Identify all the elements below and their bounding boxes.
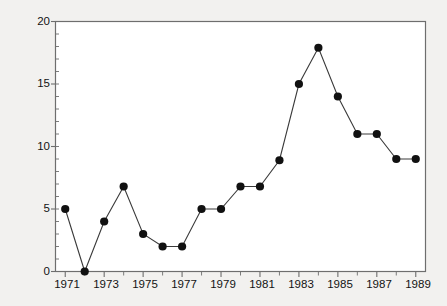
data-point-1971 bbox=[61, 205, 69, 213]
plot-area bbox=[0, 0, 447, 306]
data-point-1983 bbox=[295, 80, 303, 88]
data-point-1982 bbox=[275, 156, 283, 164]
data-point-1980 bbox=[236, 182, 244, 190]
data-point-1974 bbox=[120, 182, 128, 190]
data-point-1979 bbox=[217, 205, 225, 213]
y-axis-major-ticks bbox=[51, 22, 56, 272]
data-point-1981 bbox=[256, 182, 264, 190]
data-point-1972 bbox=[81, 267, 89, 275]
data-point-1985 bbox=[334, 92, 342, 100]
data-point-1986 bbox=[353, 130, 361, 138]
chart-figure: PG premium (pence per lb) 20 15 10 5 0 1… bbox=[0, 0, 447, 306]
data-point-1973 bbox=[100, 217, 108, 225]
plot-background bbox=[56, 22, 426, 272]
data-point-1977 bbox=[178, 242, 186, 250]
x-axis-ticks bbox=[65, 272, 416, 278]
data-point-1988 bbox=[392, 155, 400, 163]
data-point-1975 bbox=[139, 230, 147, 238]
data-point-1976 bbox=[159, 242, 167, 250]
data-point-1987 bbox=[373, 130, 381, 138]
data-point-1989 bbox=[412, 155, 420, 163]
data-point-1978 bbox=[197, 205, 205, 213]
data-point-1984 bbox=[314, 44, 322, 52]
